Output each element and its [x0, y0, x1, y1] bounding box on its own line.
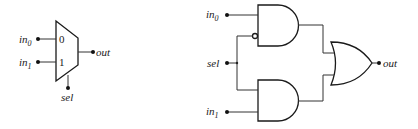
- mux-in1-label: in1: [19, 56, 32, 71]
- in0-label: in0: [206, 8, 219, 23]
- inverter-bubble: [253, 34, 258, 39]
- and-bottom-to-or-wire: [298, 75, 334, 101]
- in1-label: in1: [206, 105, 219, 120]
- mux-port1-label: 1: [59, 56, 65, 68]
- mux-in0-label: in0: [19, 33, 32, 48]
- gate-circuit: in0 in1 sel out: [206, 5, 398, 121]
- mux-sel-label: sel: [61, 91, 73, 103]
- diagram-canvas: in0 in1 0 1 out sel in0: [0, 0, 418, 129]
- mux-body: [56, 21, 78, 81]
- mux-sel-terminal: [66, 86, 70, 90]
- or-gate: [331, 42, 372, 85]
- sel-label: sel: [207, 57, 219, 69]
- and-top-to-or-wire: [298, 25, 334, 53]
- mux-port0-label: 0: [59, 33, 65, 45]
- out-terminal: [377, 61, 381, 65]
- mux-in1-terminal: [36, 60, 40, 64]
- mux-out-label: out: [96, 46, 111, 58]
- in1-terminal: [225, 110, 229, 114]
- mux-symbol: in0 in1 0 1 out sel: [19, 21, 111, 103]
- mux-out-terminal: [91, 50, 95, 54]
- mux-in0-terminal: [36, 37, 40, 41]
- sel-terminal: [225, 61, 229, 65]
- in0-terminal: [225, 13, 229, 17]
- sel-branch-wire: [237, 36, 258, 90]
- out-label: out: [383, 57, 398, 69]
- and-gate-bottom: [258, 80, 298, 121]
- and-gate-top: [258, 5, 299, 46]
